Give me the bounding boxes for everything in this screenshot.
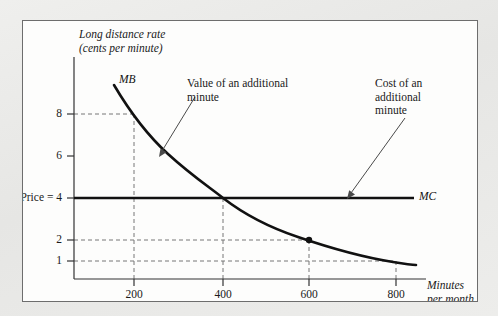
figure-page: Long distance rate (cents per minute) Mi… xyxy=(0,0,498,316)
y-axis-title-line1: Long distance rate xyxy=(79,27,165,41)
mc-curve-label: MC xyxy=(419,190,436,202)
cost-annotation-line1: Cost of an xyxy=(375,77,422,91)
ytick-label-2: 2 xyxy=(22,233,62,245)
xtick-label-800: 800 xyxy=(371,288,421,300)
value-annotation: Value of an additional minute xyxy=(187,77,288,104)
chart-canvas xyxy=(23,21,478,302)
ytick-label-8: 8 xyxy=(22,107,62,119)
x-axis-title-line2: per month xyxy=(427,292,474,302)
point-600-2 xyxy=(306,237,312,243)
ytick-label-1: 1 xyxy=(22,254,62,266)
ytick-label-price-4: Price = 4 xyxy=(22,191,62,203)
figure-frame: Long distance rate (cents per minute) Mi… xyxy=(22,20,478,302)
cost-annotation-line3: minute xyxy=(375,104,422,118)
mb-curve-label: MB xyxy=(119,73,136,85)
value-annotation-line1: Value of an additional xyxy=(187,77,288,91)
xtick-label-600: 600 xyxy=(284,288,334,300)
value-annotation-arrow xyxy=(159,97,195,157)
xtick-label-200: 200 xyxy=(109,288,159,300)
xtick-label-400: 400 xyxy=(198,288,248,300)
cost-annotation-arrow xyxy=(347,118,405,199)
cost-annotation: Cost of an additional minute xyxy=(375,77,422,118)
x-axis-title: Minutes per month xyxy=(427,278,474,302)
cost-annotation-line2: additional xyxy=(375,91,422,105)
y-axis-ticks xyxy=(67,114,74,261)
x-axis-title-line1: Minutes xyxy=(427,278,474,292)
y-axis-title: Long distance rate (cents per minute) xyxy=(79,27,165,55)
mb-curve xyxy=(114,85,416,265)
value-annotation-line2: minute xyxy=(187,91,288,105)
x-axis-ticks xyxy=(134,279,396,286)
y-axis-title-line2: (cents per minute) xyxy=(79,41,165,55)
ytick-label-6: 6 xyxy=(22,149,62,161)
